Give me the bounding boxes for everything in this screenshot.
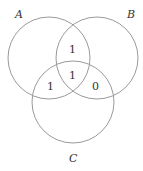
set-label-c: C — [69, 152, 78, 165]
region-abc-value: 1 — [69, 69, 76, 82]
set-label-a: A — [14, 8, 23, 21]
region-ac-value: 1 — [47, 80, 54, 93]
set-label-b: B — [126, 8, 135, 21]
venn-diagram: A B C 1 1 1 0 — [0, 0, 143, 171]
region-bc-value: 0 — [92, 80, 99, 93]
region-ab-value: 1 — [69, 43, 76, 56]
